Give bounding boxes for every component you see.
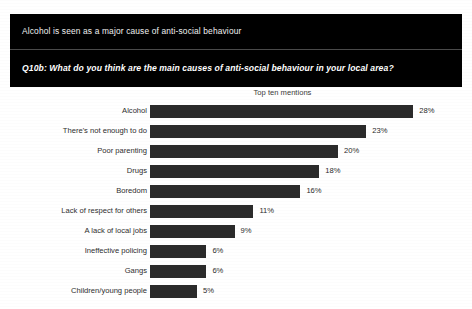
bar [150, 285, 197, 298]
bar-row: There's not enough to do23% [0, 121, 472, 141]
bar-row: Lack of respect for others11% [0, 201, 472, 221]
bar-row: Poor parenting20% [0, 141, 472, 161]
chart-subtitle: Top ten mentions [150, 88, 415, 97]
bar [150, 165, 319, 178]
bar-value-label: 9% [241, 221, 252, 241]
bar-value-label: 11% [259, 201, 274, 221]
bar-category-label: Lack of respect for others [61, 201, 147, 221]
bar-value-label: 20% [344, 141, 359, 161]
bar-row: Boredom16% [0, 181, 472, 201]
bar [150, 205, 253, 218]
bar-category-label: Alcohol [122, 101, 147, 121]
bar-value-label: 18% [325, 161, 340, 181]
survey-question: Q10b: What do you think are the main cau… [22, 63, 394, 73]
page-title: Alcohol is seen as a major cause of anti… [22, 26, 241, 36]
bar-category-label: Gangs [125, 261, 147, 281]
bar-row: Gangs6% [0, 261, 472, 281]
bar [150, 145, 338, 158]
bar-row: Drugs18% [0, 161, 472, 181]
bar-value-label: 6% [212, 261, 223, 281]
header-banner: Alcohol is seen as a major cause of anti… [10, 14, 462, 87]
bar-value-label: 5% [203, 281, 214, 301]
bar-category-label: Boredom [116, 181, 147, 201]
bar-category-label: Children/young people [71, 281, 147, 301]
bar-category-label: A lack of local jobs [85, 221, 147, 241]
bar-value-label: 6% [212, 241, 223, 261]
slide-canvas: Alcohol is seen as a major cause of anti… [0, 0, 472, 309]
bar [150, 185, 300, 198]
bar-value-label: 23% [372, 121, 387, 141]
bar-value-label: 28% [419, 101, 434, 121]
header-title-row: Alcohol is seen as a major cause of anti… [10, 14, 462, 50]
bar [150, 225, 235, 238]
bar [150, 265, 206, 278]
bar [150, 105, 413, 118]
bar-category-label: Drugs [127, 161, 147, 181]
bar-category-label: Ineffective policing [85, 241, 147, 261]
bar-row: Alcohol28% [0, 101, 472, 121]
bar-row: A lack of local jobs9% [0, 221, 472, 241]
bar-row: Ineffective policing6% [0, 241, 472, 261]
bar [150, 245, 206, 258]
bar-row: Children/young people5% [0, 281, 472, 301]
bar-category-label: There's not enough to do [63, 121, 147, 141]
bar [150, 125, 366, 138]
bar-value-label: 16% [306, 181, 321, 201]
chart-plot-area: Alcohol28%There's not enough to do23%Poo… [0, 101, 472, 301]
bar-category-label: Poor parenting [97, 141, 147, 161]
header-question-row: Q10b: What do you think are the main cau… [10, 50, 462, 87]
bar-chart: Top ten mentions Alcohol28%There's not e… [0, 88, 472, 293]
